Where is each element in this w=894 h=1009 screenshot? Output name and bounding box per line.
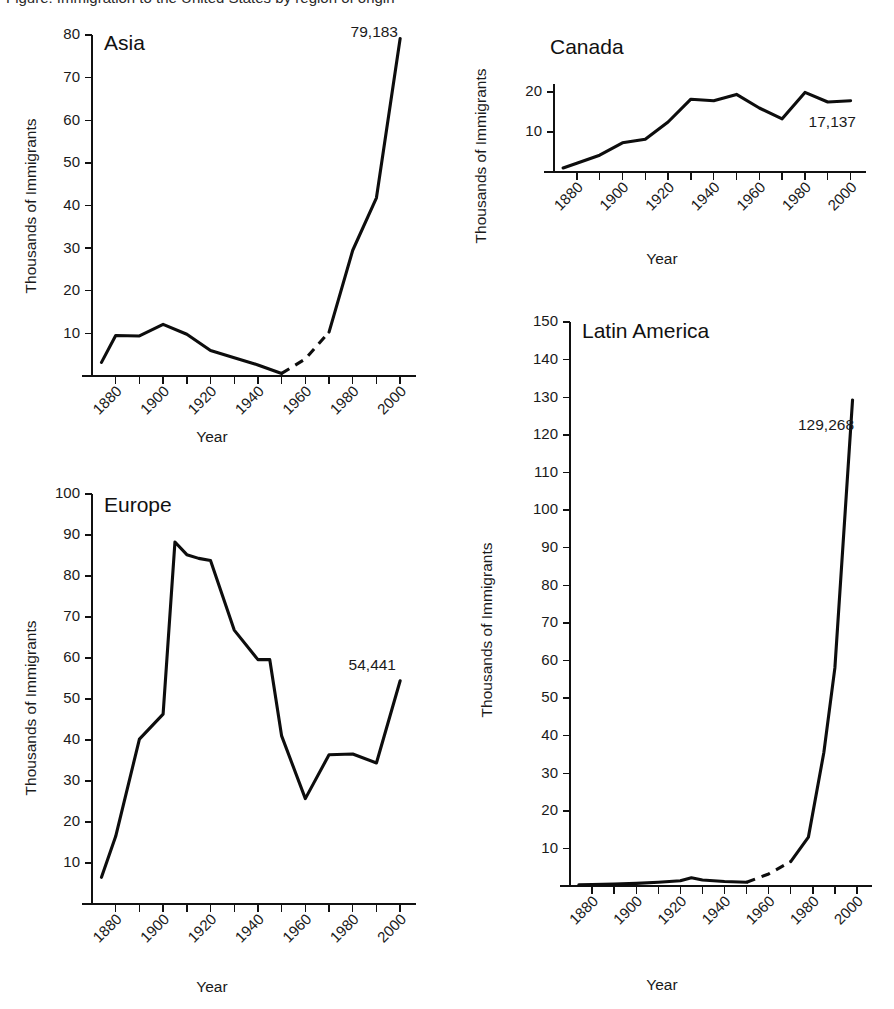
x-tick-label-latin-america-4: 1960 — [742, 892, 778, 928]
y-tick-label-latin-america-4: 50 — [541, 688, 558, 705]
chart-title-canada: Canada — [550, 35, 624, 58]
y-tick-label-europe-1: 20 — [63, 812, 80, 829]
endpoint-value-label-latin-america: 129,268 — [798, 416, 854, 433]
y-axis-title-asia: Thousands of Immigrants — [22, 118, 39, 293]
x-tick-label-asia-3: 1940 — [231, 382, 267, 418]
x-tick-label-latin-america-3: 1940 — [698, 892, 734, 928]
chart-panel-asia: 1020304050607080188019001920194019601980… — [0, 8, 440, 460]
x-axis-title-latin-america: Year — [646, 976, 677, 993]
endpoint-value-label-europe: 54,441 — [349, 656, 396, 673]
x-tick-label-europe-2: 1920 — [184, 910, 220, 946]
x-tick-label-europe-6: 2000 — [374, 910, 410, 946]
data-line-solid-latin-america-1 — [791, 400, 853, 862]
clipped-caption-artifact: Figure: Immigration to the United States… — [0, 0, 894, 6]
y-tick-label-asia-2: 30 — [63, 239, 80, 256]
x-tick-label-europe-4: 1960 — [279, 910, 315, 946]
y-tick-label-latin-america-8: 90 — [541, 538, 558, 555]
x-tick-label-canada-4: 1960 — [733, 178, 769, 214]
x-tick-label-canada-1: 1900 — [596, 178, 632, 214]
y-tick-label-asia-1: 20 — [63, 281, 80, 298]
x-axis-title-europe: Year — [196, 978, 227, 995]
x-tick-label-latin-america-0: 1880 — [566, 892, 602, 928]
y-tick-label-latin-america-2: 30 — [541, 764, 558, 781]
x-tick-label-asia-4: 1960 — [279, 382, 315, 418]
x-axis-title-asia: Year — [196, 428, 227, 445]
y-tick-label-europe-2: 30 — [63, 771, 80, 788]
x-tick-label-europe-1: 1900 — [137, 910, 173, 946]
y-tick-label-europe-7: 80 — [63, 566, 80, 583]
endpoint-value-label-asia: 79,183 — [351, 23, 398, 40]
x-tick-label-canada-5: 1980 — [778, 178, 814, 214]
x-tick-label-asia-6: 2000 — [374, 382, 410, 418]
y-tick-label-latin-america-6: 70 — [541, 613, 558, 630]
x-tick-label-canada-6: 2000 — [824, 178, 860, 214]
x-axis-title-canada: Year — [646, 250, 677, 267]
y-tick-label-europe-3: 40 — [63, 730, 80, 747]
y-tick-label-latin-america-13: 140 — [533, 350, 558, 367]
x-tick-label-latin-america-2: 1920 — [654, 892, 690, 928]
y-tick-label-asia-0: 10 — [63, 324, 80, 341]
x-tick-label-asia-5: 1980 — [326, 382, 362, 418]
chart-title-europe: Europe — [104, 493, 172, 516]
y-tick-label-asia-6: 70 — [63, 68, 80, 85]
y-tick-label-canada-0: 10 — [525, 122, 542, 139]
data-line-solid-europe-0 — [101, 542, 400, 877]
y-tick-label-asia-3: 40 — [63, 196, 80, 213]
data-line-solid-canada-0 — [563, 92, 850, 168]
y-axis-title-latin-america: Thousands of Immigrants — [478, 542, 495, 717]
data-line-solid-asia-1 — [329, 38, 400, 332]
y-tick-label-latin-america-12: 130 — [533, 388, 558, 405]
x-tick-label-canada-2: 1920 — [642, 178, 678, 214]
y-tick-label-canada-1: 20 — [525, 82, 542, 99]
chart-panel-canada: 10201880190019201940196019802000YearThou… — [446, 28, 894, 280]
y-tick-label-europe-4: 50 — [63, 689, 80, 706]
y-tick-label-latin-america-7: 80 — [541, 576, 558, 593]
y-tick-label-europe-8: 90 — [63, 525, 80, 542]
y-tick-label-asia-4: 50 — [63, 153, 80, 170]
x-tick-label-latin-america-5: 1980 — [786, 892, 822, 928]
chart-panel-latin-america: 1020304050607080901001101201301401501880… — [446, 300, 894, 1009]
data-line-solid-asia-0 — [101, 324, 281, 373]
x-tick-label-latin-america-6: 2000 — [830, 892, 866, 928]
y-tick-label-latin-america-11: 120 — [533, 425, 558, 442]
y-tick-label-asia-7: 80 — [63, 25, 80, 42]
data-line-dashed-latin-america-0 — [747, 862, 791, 883]
y-tick-label-latin-america-1: 20 — [541, 801, 558, 818]
chart-panel-europe: 1020304050607080901001880190019201940196… — [0, 470, 440, 1009]
y-tick-label-europe-9: 100 — [55, 484, 80, 501]
y-tick-label-latin-america-10: 110 — [534, 463, 558, 480]
y-tick-label-latin-america-0: 10 — [541, 839, 558, 856]
x-tick-label-europe-3: 1940 — [231, 910, 267, 946]
y-tick-label-europe-0: 10 — [63, 853, 80, 870]
y-axis-title-canada: Thousands of Immigrants — [472, 68, 489, 243]
clipped-caption-text: Figure: Immigration to the United States… — [6, 0, 894, 6]
chart-title-latin-america: Latin America — [582, 319, 710, 342]
y-tick-label-europe-6: 70 — [63, 607, 80, 624]
x-tick-label-europe-0: 1880 — [89, 910, 125, 946]
y-tick-label-asia-5: 60 — [63, 111, 80, 128]
y-axis-title-europe: Thousands of Immigrants — [22, 620, 39, 795]
data-line-dashed-asia-0 — [282, 332, 329, 373]
y-tick-label-latin-america-14: 150 — [533, 312, 558, 329]
x-tick-label-asia-1: 1900 — [137, 382, 173, 418]
data-line-solid-latin-america-0 — [579, 878, 747, 885]
x-tick-label-asia-2: 1920 — [184, 382, 220, 418]
chart-svg-europe: 1020304050607080901001880190019201940196… — [0, 470, 440, 1009]
endpoint-value-label-canada: 17,137 — [809, 113, 856, 130]
y-tick-label-latin-america-3: 40 — [541, 726, 558, 743]
x-tick-label-europe-5: 1980 — [326, 910, 362, 946]
x-tick-label-canada-3: 1940 — [687, 178, 723, 214]
chart-svg-asia: 1020304050607080188019001920194019601980… — [0, 8, 440, 460]
chart-title-asia: Asia — [104, 31, 145, 54]
x-tick-label-asia-0: 1880 — [89, 382, 125, 418]
y-tick-label-europe-5: 60 — [63, 648, 80, 665]
chart-svg-latin-america: 1020304050607080901001101201301401501880… — [446, 300, 894, 1009]
y-tick-label-latin-america-9: 100 — [533, 500, 558, 517]
x-tick-label-latin-america-1: 1900 — [610, 892, 646, 928]
chart-svg-canada: 10201880190019201940196019802000YearThou… — [446, 28, 894, 280]
y-tick-label-latin-america-5: 60 — [541, 651, 558, 668]
x-tick-label-canada-0: 1880 — [550, 178, 586, 214]
